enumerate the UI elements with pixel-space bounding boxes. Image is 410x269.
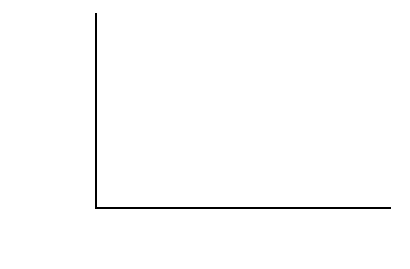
y-axis-label-spring-traps xyxy=(0,32,90,50)
bar-chart xyxy=(0,0,410,269)
bar-row xyxy=(96,155,391,173)
y-axis-label-snare xyxy=(0,85,90,103)
bar-row xyxy=(96,190,391,208)
x-axis-line xyxy=(95,207,391,209)
bar-row xyxy=(96,137,391,155)
y-axis-label-fumigation xyxy=(0,155,90,173)
y-axis-line xyxy=(95,13,97,209)
y-axis-label-wire-fence xyxy=(0,120,90,138)
bar-row xyxy=(96,85,391,103)
y-axis-label-longnet xyxy=(0,67,90,85)
bar-row xyxy=(96,14,391,32)
y-axis-label-other xyxy=(0,14,90,32)
bar-row xyxy=(96,67,391,85)
bar-row xyxy=(96,49,391,67)
bar-row xyxy=(96,102,391,120)
bar-row xyxy=(96,32,391,50)
y-axis-label-night-shooting xyxy=(0,137,90,155)
y-axis-label-day-shooting xyxy=(0,190,90,208)
plot-area xyxy=(96,14,391,208)
bar-row xyxy=(96,120,391,138)
y-axis-label-scrub-removal xyxy=(0,49,90,67)
y-axis-category-labels xyxy=(0,14,90,208)
y-axis-label-electric-fence xyxy=(0,102,90,120)
bar-series xyxy=(96,14,391,208)
bar-row xyxy=(96,173,391,191)
y-axis-label-ferrets xyxy=(0,173,90,191)
